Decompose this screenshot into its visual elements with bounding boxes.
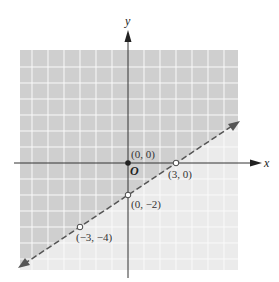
coordinate-plane: x y O (0, 0) (3, 0) (0, −2) (−3, −4): [0, 0, 279, 282]
y-axis-arrow-icon: [125, 30, 132, 42]
y-axis-label: y: [124, 14, 131, 28]
point-origin: [125, 160, 131, 166]
x-axis-arrow-icon: [250, 160, 262, 167]
point-label: (0, 0): [131, 148, 155, 161]
point-neg3-neg4: [77, 224, 83, 230]
x-axis-label: x: [263, 156, 270, 170]
point-0-neg2: [125, 192, 131, 198]
point-label: (0, −2): [131, 198, 161, 211]
inequality-graph: x y O (0, 0) (3, 0) (0, −2) (−3, −4): [0, 0, 279, 282]
point-3-0: [173, 160, 179, 166]
point-label: (−3, −4): [76, 231, 113, 244]
origin-label: O: [130, 164, 139, 178]
point-label: (3, 0): [168, 168, 192, 181]
